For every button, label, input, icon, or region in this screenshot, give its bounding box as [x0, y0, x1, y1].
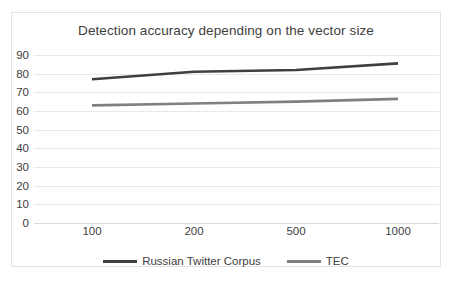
x-axis-tick-label: 500 — [286, 225, 305, 237]
legend-label: TEC — [326, 255, 349, 267]
plot-area: 9080706050403020100 — [34, 55, 439, 223]
y-axis-tick-label: 90 — [16, 49, 29, 61]
legend-item[interactable]: Russian Twitter Corpus — [103, 255, 261, 267]
legend-color-swatch — [103, 260, 137, 263]
y-axis-tick-label: 0 — [23, 217, 29, 229]
x-axis-tick-label: 100 — [82, 225, 101, 237]
series-lines — [34, 55, 439, 223]
legend-item[interactable]: TEC — [287, 255, 349, 267]
series-line — [92, 63, 398, 79]
chart-container: Detection accuracy depending on the vect… — [11, 12, 441, 267]
x-axis-tick-labels: 1002005001000 — [34, 225, 439, 243]
legend-label: Russian Twitter Corpus — [142, 255, 261, 267]
gridline — [34, 223, 439, 224]
x-axis-tick-label: 1000 — [385, 225, 411, 237]
x-axis-tick-label: 200 — [184, 225, 203, 237]
series-line — [92, 99, 398, 106]
y-axis-tick-label: 60 — [16, 105, 29, 117]
y-axis-tick-label: 20 — [16, 180, 29, 192]
y-axis-tick-label: 70 — [16, 86, 29, 98]
chart-title: Detection accuracy depending on the vect… — [12, 23, 440, 38]
y-axis-tick-label: 10 — [16, 198, 29, 210]
y-axis-tick-label: 40 — [16, 142, 29, 154]
y-axis-tick-label: 80 — [16, 68, 29, 80]
y-axis-tick-label: 30 — [16, 161, 29, 173]
chart-legend: Russian Twitter CorpusTEC — [12, 255, 440, 267]
y-axis-tick-label: 50 — [16, 124, 29, 136]
legend-color-swatch — [287, 260, 321, 263]
